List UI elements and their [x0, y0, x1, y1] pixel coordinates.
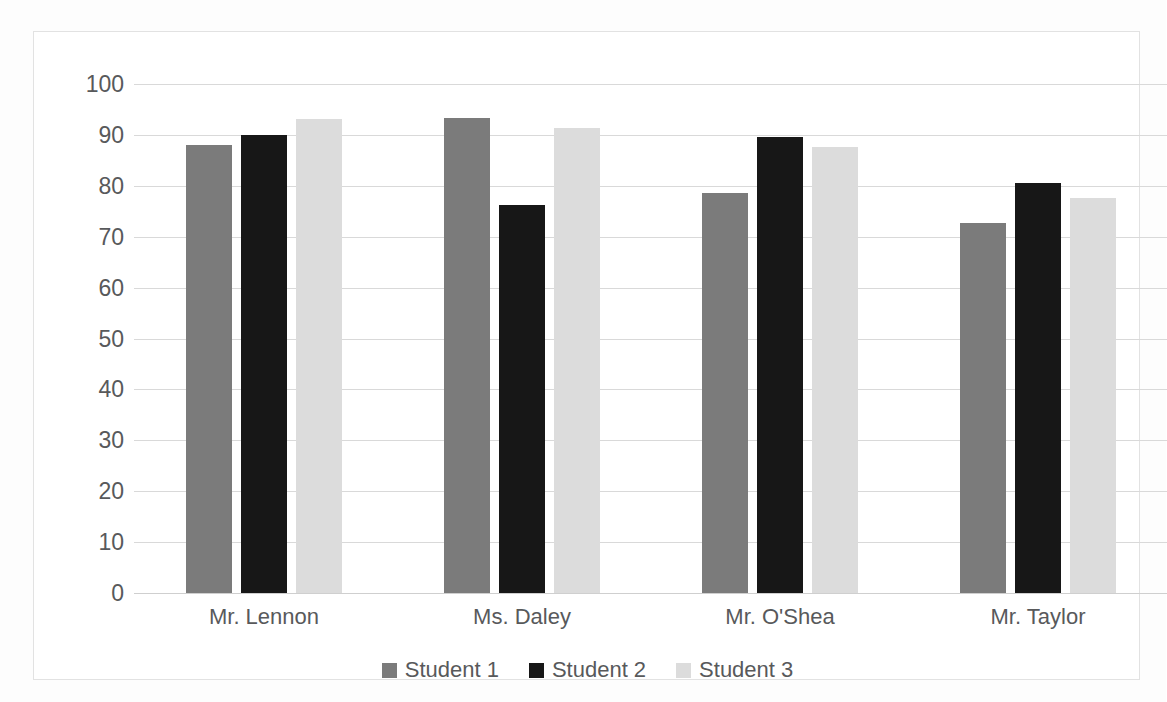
y-axis-tick-label: 10	[62, 531, 124, 554]
chart-plot-frame: 1009080706050403020100 Mr. LennonMs. Dal…	[33, 31, 1140, 680]
chart-legend: Student 1Student 2Student 3	[34, 659, 1141, 681]
bar	[241, 135, 287, 593]
y-axis-tick-label: 0	[62, 582, 124, 605]
y-axis-tick-label: 40	[62, 378, 124, 401]
bar	[757, 137, 803, 593]
legend-swatch-icon	[529, 663, 544, 678]
bar	[1015, 183, 1061, 593]
bar	[554, 128, 600, 593]
legend-swatch-icon	[382, 663, 397, 678]
y-axis-tick-label: 60	[62, 276, 124, 299]
y-axis-tick-label: 100	[62, 73, 124, 96]
x-axis-category-label: Mr. Lennon	[209, 604, 319, 630]
x-axis-category-labels: Mr. LennonMs. DaleyMr. O'SheaMr. Taylor	[134, 604, 1167, 638]
legend-label: Student 2	[552, 659, 646, 681]
legend-item[interactable]: Student 3	[676, 659, 793, 681]
bar	[186, 145, 232, 593]
gridline	[134, 593, 1167, 594]
y-axis-tick-label: 30	[62, 429, 124, 452]
x-axis-category-label: Ms. Daley	[473, 604, 571, 630]
x-axis-category-label: Mr. Taylor	[991, 604, 1086, 630]
y-axis-tick-label: 50	[62, 327, 124, 350]
bar	[296, 119, 342, 593]
y-axis-tick-label: 80	[62, 174, 124, 197]
y-axis-tick-label: 70	[62, 225, 124, 248]
y-axis-tick-labels: 1009080706050403020100	[54, 84, 124, 593]
legend-label: Student 1	[405, 659, 499, 681]
bar	[702, 193, 748, 593]
y-axis-tick-label: 20	[62, 480, 124, 503]
bar	[444, 118, 490, 593]
bar	[1070, 198, 1116, 593]
legend-label: Student 3	[699, 659, 793, 681]
legend-item[interactable]: Student 1	[382, 659, 499, 681]
bar	[960, 223, 1006, 593]
legend-item[interactable]: Student 2	[529, 659, 646, 681]
bar	[812, 147, 858, 593]
y-axis-tick-label: 90	[62, 123, 124, 146]
bar	[499, 205, 545, 593]
x-axis-category-label: Mr. O'Shea	[725, 604, 834, 630]
bars-layer	[134, 84, 1167, 593]
legend-swatch-icon	[676, 663, 691, 678]
